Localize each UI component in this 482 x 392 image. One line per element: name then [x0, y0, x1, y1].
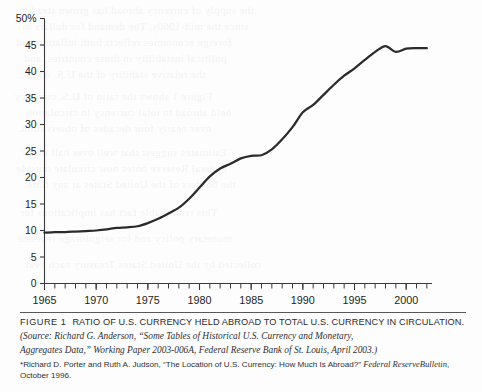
- x-axis-tick-label: 1965: [32, 294, 56, 306]
- footnote-journal-name-cont: Bulletin: [420, 359, 447, 369]
- figure-number-label: FIGURE 1: [20, 317, 66, 327]
- footnote-journal-name: Federal Reserve: [363, 359, 420, 369]
- figure-caption-block: FIGURE 1RATIO OF U.S. CURRENCY HELD ABRO…: [20, 312, 466, 382]
- series-path: [45, 46, 427, 233]
- figure-source-line-2: Aggregates Data,” Working Paper 2003-006…: [20, 344, 466, 356]
- currency-abroad-line-chart: 50%454035302520151050 196519701975198019…: [0, 0, 482, 312]
- figure-footnote: *Richard D. Porter and Ruth A. Judson, “…: [20, 359, 466, 381]
- x-axis-tick-label: 1995: [342, 294, 366, 306]
- y-axis: 50%454035302520151050: [16, 13, 45, 289]
- y-axis-tick-label: 20: [25, 172, 37, 183]
- y-axis-tick-label: 0: [31, 278, 37, 289]
- figure-page: the supply of currency abroad has grown …: [0, 0, 482, 392]
- x-axis-tick-label: 1975: [136, 294, 160, 306]
- x-axis-tick-label: 1970: [84, 294, 108, 306]
- y-axis-tick-label: 45: [25, 40, 37, 51]
- x-axis-tick-label: 1990: [291, 294, 315, 306]
- x-axis: 19651970197519801985199019952000: [32, 284, 432, 306]
- x-axis-tick-label: 1985: [239, 294, 263, 306]
- figure-source-line-1: (Source: Richard G. Anderson, “Some Tabl…: [20, 330, 466, 342]
- y-axis-tick-label: 35: [25, 93, 37, 104]
- y-axis-tick-label: 5: [31, 252, 37, 263]
- y-axis-tick-label: 25: [25, 146, 37, 157]
- y-axis-tick-label: 50%: [16, 13, 37, 24]
- y-axis-tick-label: 30: [25, 119, 37, 130]
- caption-divider: [20, 312, 466, 313]
- x-axis-tick-label: 2000: [394, 294, 418, 306]
- figure-title-text: RATIO OF U.S. CURRENCY HELD ABROAD TO TO…: [72, 317, 464, 327]
- y-axis-tick-label: 15: [25, 199, 37, 210]
- y-axis-tick-label: 40: [25, 66, 37, 77]
- x-axis-tick-label: 1980: [187, 294, 211, 306]
- figure-title-row: FIGURE 1RATIO OF U.S. CURRENCY HELD ABRO…: [20, 316, 466, 328]
- data-series-line: [45, 46, 427, 233]
- chart-canvas: 50%454035302520151050 196519701975198019…: [0, 0, 482, 312]
- footnote-text-start: *Richard D. Porter and Ruth A. Judson, “…: [20, 360, 363, 369]
- y-axis-tick-label: 10: [25, 225, 37, 236]
